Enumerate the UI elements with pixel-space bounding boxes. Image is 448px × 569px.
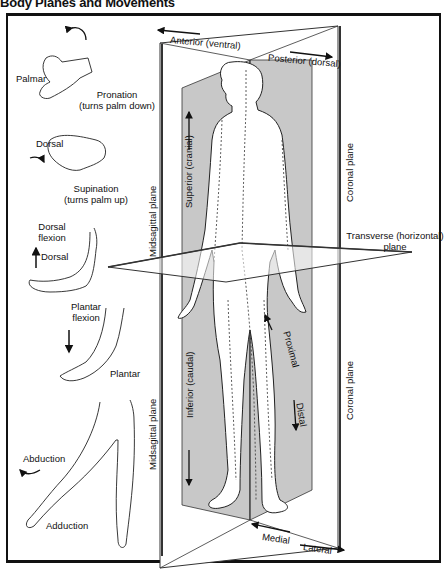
- anterior-arrow: [158, 30, 200, 34]
- midsagittal-plane-label-lower: Midsagittal plane: [147, 399, 158, 470]
- midsagittal-plane-label-upper: Midsagittal plane: [147, 186, 158, 257]
- transverse-plane-label-line1: Transverse (horizontal): [345, 230, 445, 241]
- dorsal-flexion-label-line2: flexion: [32, 232, 72, 243]
- pronation-label-line2: (turns palm down): [72, 100, 162, 111]
- plantar-flexion-label-line2: flexion: [66, 312, 106, 323]
- supination-label-line1: Supination: [56, 183, 136, 194]
- plantar-flexion-label-line1: Plantar: [66, 301, 106, 312]
- hand-pronation-figure: [40, 28, 92, 99]
- coronal-plane-label-lower: Coronal plane: [344, 361, 355, 420]
- plantar-label: Plantar: [110, 368, 140, 379]
- transverse-plane-label: Transverse (horizontal) plane: [345, 230, 445, 252]
- body-planes-illustration: [0, 0, 448, 569]
- plantar-flexion-label: Plantar flexion: [66, 301, 106, 323]
- supination-label-line2: (turns palm up): [56, 194, 136, 205]
- pronation-label: Pronation (turns palm down): [72, 89, 162, 111]
- coronal-plane-label-upper: Coronal plane: [344, 143, 355, 202]
- abduction-label: Abduction: [23, 453, 65, 464]
- transverse-plane-label-line2: plane: [345, 241, 445, 252]
- dorsal-flexion-label-line1: Dorsal: [32, 221, 72, 232]
- inferior-label: Inferior (caudal): [184, 351, 195, 418]
- superior-label: Superior (cranial): [183, 135, 194, 208]
- palmar-label: Palmar: [16, 73, 46, 84]
- dorsal-hand-label: Dorsal: [36, 138, 63, 149]
- adduction-label: Adduction: [46, 520, 88, 531]
- dorsal-foot-label: Dorsal: [41, 251, 68, 262]
- dorsal-flexion-label: Dorsal flexion: [32, 221, 72, 243]
- supination-label: Supination (turns palm up): [56, 183, 136, 205]
- pronation-label-line1: Pronation: [72, 89, 162, 100]
